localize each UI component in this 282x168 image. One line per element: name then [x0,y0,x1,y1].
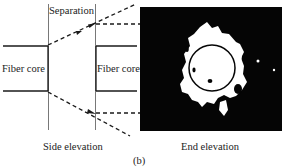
end-elevation-image [140,7,282,131]
right-core-label: Fiber core [97,64,140,75]
end-elevation-label: End elevation [181,142,239,153]
figure-caption: (b) [133,156,145,167]
arrow-icon [76,31,82,35]
arrow-icon [88,23,96,28]
side-elevation-label: Side elevation [43,142,103,153]
separation-label: Separation [49,6,94,17]
left-core-label: Fiber core [2,64,45,75]
